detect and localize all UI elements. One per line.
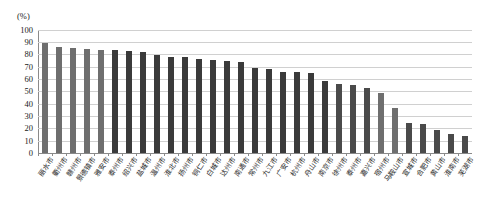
y-axis-tick-20: 20 xyxy=(25,124,34,133)
bar[interactable] xyxy=(140,52,146,153)
bar-slot xyxy=(234,30,248,154)
bar-slot xyxy=(262,30,276,154)
bar[interactable] xyxy=(308,73,314,153)
bar-slot xyxy=(206,30,220,154)
bar[interactable] xyxy=(420,124,426,153)
bar-slot xyxy=(402,30,416,154)
bar[interactable] xyxy=(84,49,90,153)
bar-slot xyxy=(290,30,304,154)
bar[interactable] xyxy=(42,43,48,153)
bar-slot xyxy=(318,30,332,154)
bar-slot xyxy=(304,30,318,154)
bar[interactable] xyxy=(126,51,132,153)
bar[interactable] xyxy=(434,130,440,153)
bar[interactable] xyxy=(294,72,300,153)
bar-slot xyxy=(150,30,164,154)
bar[interactable] xyxy=(252,68,258,153)
bar[interactable] xyxy=(182,57,188,153)
bar[interactable] xyxy=(98,50,104,153)
bar-slot xyxy=(178,30,192,154)
bar-slot xyxy=(360,30,374,154)
bar-slot xyxy=(458,30,472,154)
bar-slot xyxy=(136,30,150,154)
bar-slot xyxy=(108,30,122,154)
bar[interactable] xyxy=(168,57,174,153)
bar-slot xyxy=(94,30,108,154)
y-axis-tick-60: 60 xyxy=(25,74,34,83)
bar[interactable] xyxy=(350,85,356,153)
bar[interactable] xyxy=(322,81,328,153)
bar-slot xyxy=(416,30,430,154)
bar-slot xyxy=(248,30,262,154)
bar-slot xyxy=(346,30,360,154)
bar-slot xyxy=(122,30,136,154)
y-axis-tick-100: 100 xyxy=(20,25,33,34)
bar-slot xyxy=(332,30,346,154)
y-axis-tick-80: 80 xyxy=(25,50,34,59)
y-axis-tick-30: 30 xyxy=(25,111,34,120)
y-axis-tick-10: 10 xyxy=(25,136,34,145)
bar[interactable] xyxy=(112,50,118,153)
bar-slot xyxy=(52,30,66,154)
bar[interactable] xyxy=(196,59,202,153)
bar-slot xyxy=(374,30,388,154)
bar-slot xyxy=(164,30,178,154)
bar[interactable] xyxy=(154,55,160,153)
bar-slot xyxy=(66,30,80,154)
bar[interactable] xyxy=(210,60,216,153)
bar[interactable] xyxy=(448,134,454,153)
bar-slot xyxy=(38,30,52,154)
bar[interactable] xyxy=(336,84,342,153)
bar[interactable] xyxy=(406,123,412,153)
bar[interactable] xyxy=(266,69,272,153)
y-axis-tick-40: 40 xyxy=(25,99,34,108)
bar[interactable] xyxy=(70,48,76,153)
bar-series xyxy=(38,30,472,154)
bar[interactable] xyxy=(364,88,370,153)
bar-slot xyxy=(430,30,444,154)
bar-slot xyxy=(276,30,290,154)
bar-slot xyxy=(220,30,234,154)
axis-baseline xyxy=(38,153,472,154)
bar-chart: (%) 0102030405060708090100 丽水市衢州市赣州市景德镇市… xyxy=(0,0,484,198)
y-axis-tick-0: 0 xyxy=(29,149,33,158)
bar-slot xyxy=(80,30,94,154)
bar[interactable] xyxy=(238,62,244,153)
bar[interactable] xyxy=(56,47,62,153)
bar-slot xyxy=(388,30,402,154)
x-axis-tick-labels: 丽水市衢州市赣州市景德镇市雅安市泰州市绍兴市盐城市温州市淮北市扬州市铜仁市白城市… xyxy=(38,156,472,198)
bar[interactable] xyxy=(280,72,286,154)
bar-slot xyxy=(192,30,206,154)
plot-area xyxy=(38,30,472,154)
y-axis-tick-labels: 0102030405060708090100 xyxy=(0,0,38,198)
y-axis-tick-70: 70 xyxy=(25,62,34,71)
bar[interactable] xyxy=(224,61,230,153)
bar[interactable] xyxy=(378,93,384,154)
y-axis-tick-90: 90 xyxy=(25,37,34,46)
y-axis-tick-50: 50 xyxy=(25,87,34,96)
bar-slot xyxy=(444,30,458,154)
bar[interactable] xyxy=(392,108,398,153)
bar[interactable] xyxy=(462,136,468,153)
